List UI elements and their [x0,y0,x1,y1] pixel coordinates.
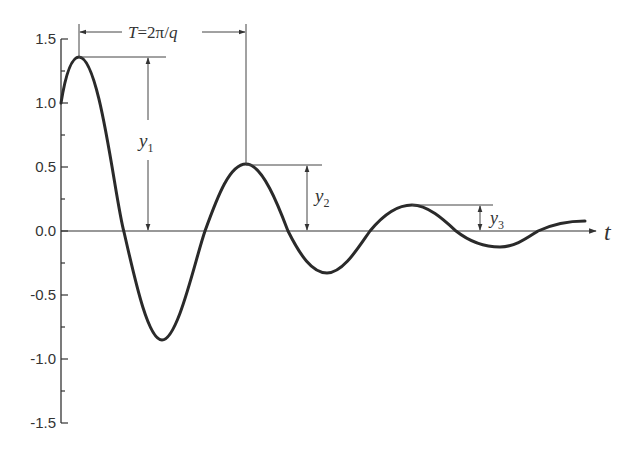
y-tick-label: -0.5 [30,286,56,303]
y3-label: y3 [488,208,504,232]
y1-label: y1 [137,130,153,155]
y-tick-label: 1.5 [35,30,56,47]
t-axis-label: t [604,219,612,245]
y-tick-label: -1.0 [30,350,56,367]
period-label: T=2π/q [128,23,178,42]
y-tick-label: 0.0 [35,222,56,239]
t-axis: t [61,219,612,245]
y-tick-label: 0.5 [35,158,56,175]
period-annotation [79,24,246,164]
y2-label: y2 [313,185,329,210]
chart-svg: 1.5 1.0 0.5 0.0 -0.5 -1.0 -1.5 t T=2π/q … [0,0,636,449]
y-tick-label: 1.0 [35,94,56,111]
y-tick-label: -1.5 [30,414,56,431]
